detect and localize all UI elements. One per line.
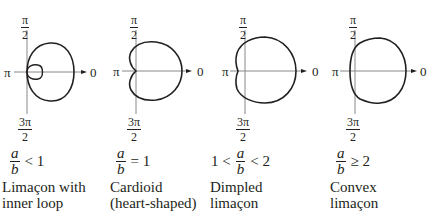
condition-cardioid: ab = 1	[108, 146, 153, 177]
label-pi: π	[113, 65, 120, 78]
label-3pi-over-2: 3π2	[18, 116, 32, 143]
label-3pi-over-2: 3π2	[236, 116, 250, 143]
arrow-icon	[81, 70, 87, 74]
label-pi-over-2: π2	[239, 14, 247, 41]
condition-dimpled: 1 < ab < 2	[208, 146, 273, 177]
panel-dimpled: π2 π 0 3π2 1 < ab < 2 Dimpledlimaçon	[200, 0, 306, 210]
label-pi-over-2: π2	[349, 14, 357, 41]
label-pi: π	[222, 65, 229, 78]
name-dimpled: Dimpledlimaçon	[210, 179, 263, 211]
panel-convex: π2 π 0 3π2 ab ≥ 2 Convexlimaçon	[310, 0, 416, 210]
arrow-icon	[301, 69, 307, 73]
arrow-icon	[411, 69, 417, 73]
label-zero: 0	[90, 66, 97, 79]
name-cardioid: Cardioid(heart-shaped)	[110, 179, 197, 211]
condition-convex: ab ≥ 2	[328, 146, 373, 177]
label-3pi-over-2: 3π2	[346, 116, 360, 143]
label-3pi-over-2: 3π2	[127, 116, 141, 143]
condition-inner-loop: ab < 1	[2, 146, 47, 177]
label-zero: 0	[420, 65, 427, 78]
polar-graph-dimpled	[200, 0, 320, 140]
panel-cardioid: π2 π 0 3π2 ab = 1 Cardioid(heart-shaped)	[100, 0, 206, 210]
label-pi: π	[4, 66, 11, 79]
label-pi-over-2: π2	[130, 14, 138, 41]
label-pi: π	[332, 65, 339, 78]
polar-graph-convex	[310, 0, 426, 140]
name-convex: Convexlimaçon	[330, 179, 378, 211]
name-inner-loop: Limaçon withinner loop	[2, 179, 86, 211]
label-pi-over-2: π2	[21, 14, 29, 41]
arrow-icon	[186, 69, 192, 73]
panel-inner-loop: π2 π 0 3π2 ab < 1 Limaçon withinner loop	[0, 0, 106, 210]
